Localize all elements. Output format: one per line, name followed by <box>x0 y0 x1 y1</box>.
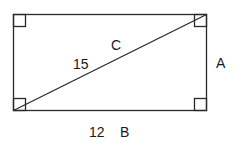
right-angle-mark-bottom-left <box>14 99 26 111</box>
diagonal-c <box>14 15 207 111</box>
label-side-b: B <box>120 124 129 140</box>
label-diagonal-length: 15 <box>73 56 89 72</box>
right-angle-mark-top-right <box>195 15 207 27</box>
label-diagonal-name: C <box>111 37 121 53</box>
right-angle-mark-bottom-right <box>195 99 207 111</box>
rectangle-diagram: 15 C A 12 B <box>0 0 248 160</box>
label-side-a: A <box>216 55 226 71</box>
right-angle-mark-top-left <box>14 15 26 27</box>
label-bottom-length: 12 <box>89 124 105 140</box>
